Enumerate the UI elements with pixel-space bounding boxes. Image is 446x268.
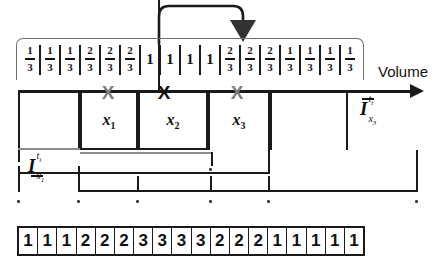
box-x2-label: x2 [167,111,180,131]
x-marker-3: X [231,83,244,102]
tick-dot [17,200,20,203]
discrete-value-cell: 2 [115,228,134,254]
fraction-value: 13 [65,45,75,73]
discrete-value-cell: 1 [326,228,345,254]
discrete-value-cell: 1 [19,228,38,254]
interval-tick-mid-b [210,176,212,192]
interval-symbol-I-bar: I [360,98,367,120]
tick-dot [209,168,212,171]
fraction-value: 23 [105,45,115,73]
discrete-value-cell: 3 [134,228,153,254]
interval-symbol-I: I [28,155,35,177]
lower-interval-label-x1: I ti x1 [28,155,44,182]
fraction-cell: 13 [20,38,40,80]
fraction-cell: 13 [40,38,60,80]
discrete-value-cell: 3 [153,228,172,254]
discrete-value-cell: 1 [57,228,76,254]
fraction-cell: 23 [260,38,280,80]
fraction-cell: 1 [200,38,220,80]
fraction-value: 13 [285,45,295,73]
volume-axis-label: Volume [378,63,428,80]
fraction-value: 23 [125,45,135,73]
x-marker-1: X [102,83,115,102]
fraction-value: 13 [345,45,355,73]
interval-bar-level-1 [18,172,270,174]
fraction-cell: 13 [340,38,360,80]
volume-fraction-strip: 131313232323111123232313131313 [16,38,364,80]
x1-lower-bound-gray-line [18,148,80,150]
discrete-value-cell: 1 [38,228,57,254]
discrete-value-cell: 3 [172,228,191,254]
discrete-value-cell: 3 [192,228,211,254]
interval-tick-mid-left [78,166,80,192]
discrete-value-cell: 2 [96,228,115,254]
fraction-cell: 13 [60,38,80,80]
subscript-x3: x3 [368,114,376,127]
left-guide-tick-a [18,150,20,162]
discrete-value-cell: 2 [211,228,230,254]
discrete-value-cell: 1 [268,228,287,254]
whole-value: 1 [206,52,214,67]
interval-tick-gray-right [211,152,213,166]
fraction-value: 13 [25,45,35,73]
box-x2-bottom-edge [80,148,208,150]
discrete-value-cell: 2 [77,228,96,254]
x-marker-2: X [158,83,171,102]
box-empty-left [18,92,80,150]
fraction-value: 13 [45,45,55,73]
subscript-x1: x1 [36,171,44,184]
discrete-value-strip: 111222333322211111 [17,226,365,256]
interval-tick-mid-a [137,176,139,192]
superscript-ti: ti [36,151,41,164]
fraction-cell: 13 [300,38,320,80]
fraction-value: 13 [325,45,335,73]
box-x1-label: x1 [103,111,116,131]
discrete-value-cell: 1 [287,228,306,254]
fraction-cell: 23 [220,38,240,80]
whole-value: 1 [166,52,174,67]
fraction-cell: 23 [120,38,140,80]
upper-interval-label-x3: I ti x3 [360,98,376,125]
volume-axis-arrowhead [410,84,424,98]
discrete-value-cell: 1 [307,228,326,254]
fraction-cell: 1 [180,38,200,80]
whole-value: 1 [146,52,154,67]
interval-bar-level-2 [78,190,418,192]
superscript-ti: ti [368,94,373,107]
tick-dot [267,200,270,203]
discrete-value-cell: 2 [230,228,249,254]
fraction-cell: 23 [100,38,120,80]
fraction-value: 23 [245,45,255,73]
tick-dot [136,200,139,203]
tick-dot [209,200,212,203]
box-x2: x2 [138,92,208,150]
interval-tick-far-right [416,150,418,192]
interval-tick-mid-c [268,176,270,192]
discrete-value-cell: 2 [249,228,268,254]
interval-bar-gray-upper [80,152,213,154]
whole-value: 1 [186,52,194,67]
fraction-value: 23 [225,45,235,73]
fraction-value: 23 [85,45,95,73]
tick-dot [77,200,80,203]
fraction-cell: 23 [80,38,100,80]
left-guide-tick-b [18,166,20,192]
fraction-cell-list: 131313232323111123232313131313 [16,38,364,80]
interval-bar-level-1-right-tick [268,150,270,174]
fraction-cell: 23 [240,38,260,80]
diagram-canvas: 131313232323111123232313131313 Volume x1… [0,0,446,268]
discrete-value-cell: 1 [345,228,363,254]
fraction-cell: 1 [160,38,180,80]
tick-dot [415,200,418,203]
box-x3-label: x3 [233,111,246,131]
fraction-cell: 13 [320,38,340,80]
fraction-value: 13 [305,45,315,73]
box-empty-right [270,92,348,150]
fraction-cell: 13 [280,38,300,80]
fraction-value: 23 [265,45,275,73]
fraction-cell: 1 [140,38,160,80]
